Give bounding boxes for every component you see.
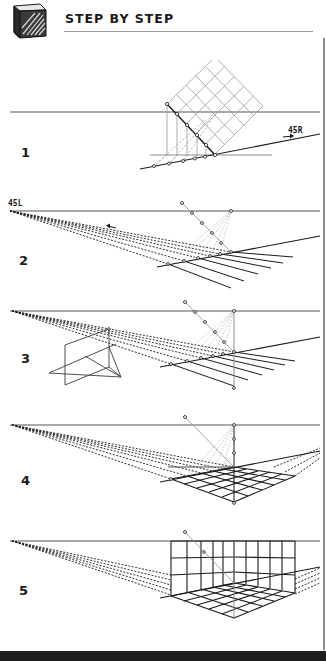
step-1-diagram [0,60,322,190]
step-2: 45L 2 [0,190,322,300]
step-number: 5 [19,583,28,598]
step-2-diagram [0,190,322,300]
step-5: 5 [0,525,322,650]
step-4: 4 [0,410,322,530]
footer-bar [0,651,326,661]
step-number: 1 [21,145,30,160]
page-title: STEP BY STEP [65,11,174,26]
step-1: 1 45R [0,60,322,190]
step-4-diagram [0,410,322,530]
step-number: 4 [21,473,30,488]
page-border [323,38,325,650]
step-number: 3 [21,351,30,366]
sketched-cube-icon [10,0,52,40]
step-3: 3 [0,295,322,410]
header: STEP BY STEP [0,0,326,40]
direction-label-45l: 45L [8,199,22,208]
title-divider [64,31,313,32]
step-number: 2 [19,253,28,268]
direction-label-45r: 45R [288,126,302,135]
step-5-diagram [0,525,322,650]
step-3-diagram [0,295,322,410]
